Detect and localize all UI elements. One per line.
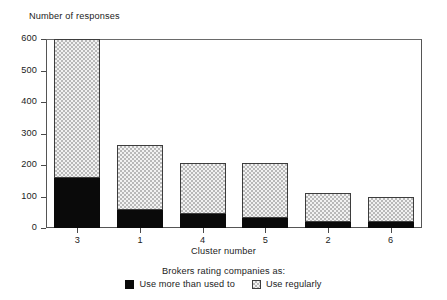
y-axis-title: Number of responses (29, 11, 120, 21)
legend-item-use-more-than-used-to: Use more than used to (125, 279, 234, 289)
x-tick-label: 6 (377, 235, 405, 245)
x-tick-mark (140, 228, 141, 233)
bar-segment-use-more-than-used-to (180, 214, 226, 228)
y-tick-label: 0 (32, 222, 37, 232)
legend-title: Brokers rating companies as: (0, 266, 447, 276)
y-tick-label: 200 (21, 159, 37, 169)
checkered-swatch (252, 280, 261, 289)
legend-item-use-regularly: Use regularly (252, 279, 322, 289)
chart-figure: Number of responses 0100200300400500600 … (0, 0, 447, 300)
chart-legend: Brokers rating companies as: Use more th… (0, 266, 447, 289)
y-tick-label: 100 (21, 191, 37, 201)
x-tick-mark (391, 228, 392, 233)
bar-cluster-6 (368, 197, 414, 228)
x-tick-mark (328, 228, 329, 233)
bar-cluster-1 (117, 145, 163, 228)
bar-cluster-5 (242, 163, 288, 228)
y-tick-label: 600 (21, 33, 37, 43)
bar-segment-use-regularly (305, 193, 351, 221)
bar-segment-use-regularly (368, 197, 414, 222)
bars-layer (46, 39, 422, 228)
bar-cluster-4 (180, 163, 226, 228)
bar-segment-use-regularly (54, 39, 100, 178)
bar-segment-use-more-than-used-to (54, 178, 100, 228)
y-tick-label: 300 (21, 128, 37, 138)
x-tick-label: 4 (189, 235, 217, 245)
x-tick-label: 3 (63, 235, 91, 245)
bar-segment-use-regularly (117, 145, 163, 210)
x-axis-title: Cluster number (0, 246, 447, 256)
x-tick-mark (265, 228, 266, 233)
x-tick-mark (203, 228, 204, 233)
x-tick-label: 2 (314, 235, 342, 245)
y-tick-mark (41, 228, 46, 229)
x-tick-label: 1 (126, 235, 154, 245)
bar-segment-use-more-than-used-to (117, 210, 163, 228)
bar-cluster-2 (305, 193, 351, 228)
bar-segment-use-regularly (180, 163, 226, 213)
bar-segment-use-regularly (242, 163, 288, 217)
x-tick-label: 5 (251, 235, 279, 245)
bar-segment-use-more-than-used-to (242, 218, 288, 228)
legend-label: Use more than used to (139, 279, 234, 289)
x-tick-mark (77, 228, 78, 233)
y-tick-label: 500 (21, 65, 37, 75)
solid-black-swatch (125, 280, 134, 289)
bar-cluster-3 (54, 39, 100, 228)
legend-label: Use regularly (266, 279, 322, 289)
legend-items: Use more than used toUse regularly (0, 279, 447, 289)
y-tick-label: 400 (21, 96, 37, 106)
